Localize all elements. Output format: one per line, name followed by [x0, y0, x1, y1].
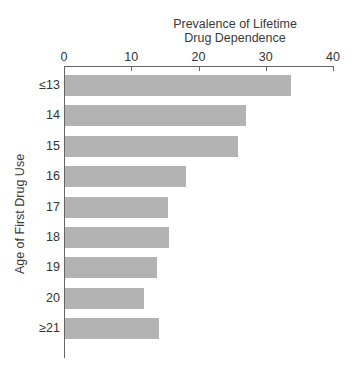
- y-axis-label: Age of First Drug Use: [13, 154, 27, 274]
- bar: [65, 105, 246, 126]
- bar: [65, 166, 186, 187]
- bar: [65, 136, 238, 157]
- bar: [65, 75, 291, 96]
- x-tick-label: 30: [251, 50, 281, 64]
- category-label: 19: [30, 260, 60, 274]
- category-label: 17: [30, 200, 60, 214]
- x-tick-label: 0: [49, 50, 79, 64]
- x-tick: [333, 66, 334, 71]
- category-label: 16: [30, 169, 60, 183]
- x-tick-label: 40: [318, 50, 348, 64]
- bar: [65, 227, 169, 248]
- x-tick: [64, 66, 65, 71]
- bar: [65, 257, 157, 278]
- category-label: 15: [30, 139, 60, 153]
- bar: [65, 288, 144, 309]
- chart-title-line-2: Drug Dependence: [130, 31, 340, 46]
- category-label: 18: [30, 230, 60, 244]
- x-tick: [199, 66, 200, 71]
- category-label: 20: [30, 291, 60, 305]
- x-tick-label: 20: [184, 50, 214, 64]
- bar: [65, 197, 168, 218]
- chart-title-line-1: Prevalence of Lifetime: [130, 17, 340, 32]
- category-label: ≥21: [30, 321, 60, 335]
- x-tick: [266, 66, 267, 71]
- bar: [65, 318, 159, 339]
- x-tick-label: 10: [116, 50, 146, 64]
- category-label: ≤13: [30, 78, 60, 92]
- x-tick: [131, 66, 132, 71]
- category-label: 14: [30, 108, 60, 122]
